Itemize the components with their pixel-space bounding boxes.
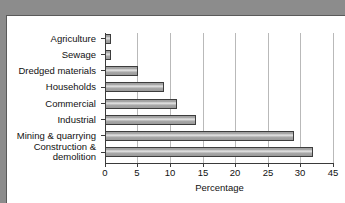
bar-agriculture: [105, 34, 111, 44]
xtick-label-35: 45: [321, 167, 345, 178]
xtick-label-5: 5: [125, 167, 149, 178]
gridline-15: [203, 33, 204, 163]
bar-commercial: [105, 99, 177, 109]
value-axis-title: Percentage: [105, 182, 334, 193]
category-label-construction-demolition-line2: demolition: [53, 152, 96, 162]
category-label-sewage: Sewage: [62, 50, 96, 60]
bar-households: [105, 82, 164, 92]
category-label-mining-quarrying: Mining & quarrying: [17, 131, 96, 141]
gridline-5: [137, 33, 138, 163]
gridline-30: [300, 33, 301, 163]
xtick-label-10: 10: [158, 167, 182, 178]
bar-construction-demolition: [105, 147, 313, 157]
bar-dredged-materials: [105, 66, 138, 76]
category-label-industrial: Industrial: [57, 115, 96, 125]
bar-chart-plot: Agriculture Sewage Dredged materials Hou…: [0, 0, 345, 203]
bar-mining-quarrying: [105, 131, 294, 141]
category-label-dredged-materials: Dredged materials: [18, 66, 96, 76]
gridline-10: [170, 33, 171, 163]
gridline-35: [333, 33, 334, 163]
xtick-label-20: 20: [223, 167, 247, 178]
xtick-label-15: 15: [191, 167, 215, 178]
category-label-households: Households: [46, 82, 96, 92]
xtick-label-30: 30: [288, 167, 312, 178]
bar-industrial: [105, 115, 196, 125]
bar-sewage: [105, 50, 111, 60]
category-label-commercial: Commercial: [45, 99, 96, 109]
xtick-label-0: 0: [93, 167, 117, 178]
category-label-agriculture: Agriculture: [51, 34, 96, 44]
gridline-20: [235, 33, 236, 163]
chart-figure: Agriculture Sewage Dredged materials Hou…: [0, 0, 345, 203]
gridline-25: [268, 33, 269, 163]
xtick-label-25: 25: [256, 167, 280, 178]
